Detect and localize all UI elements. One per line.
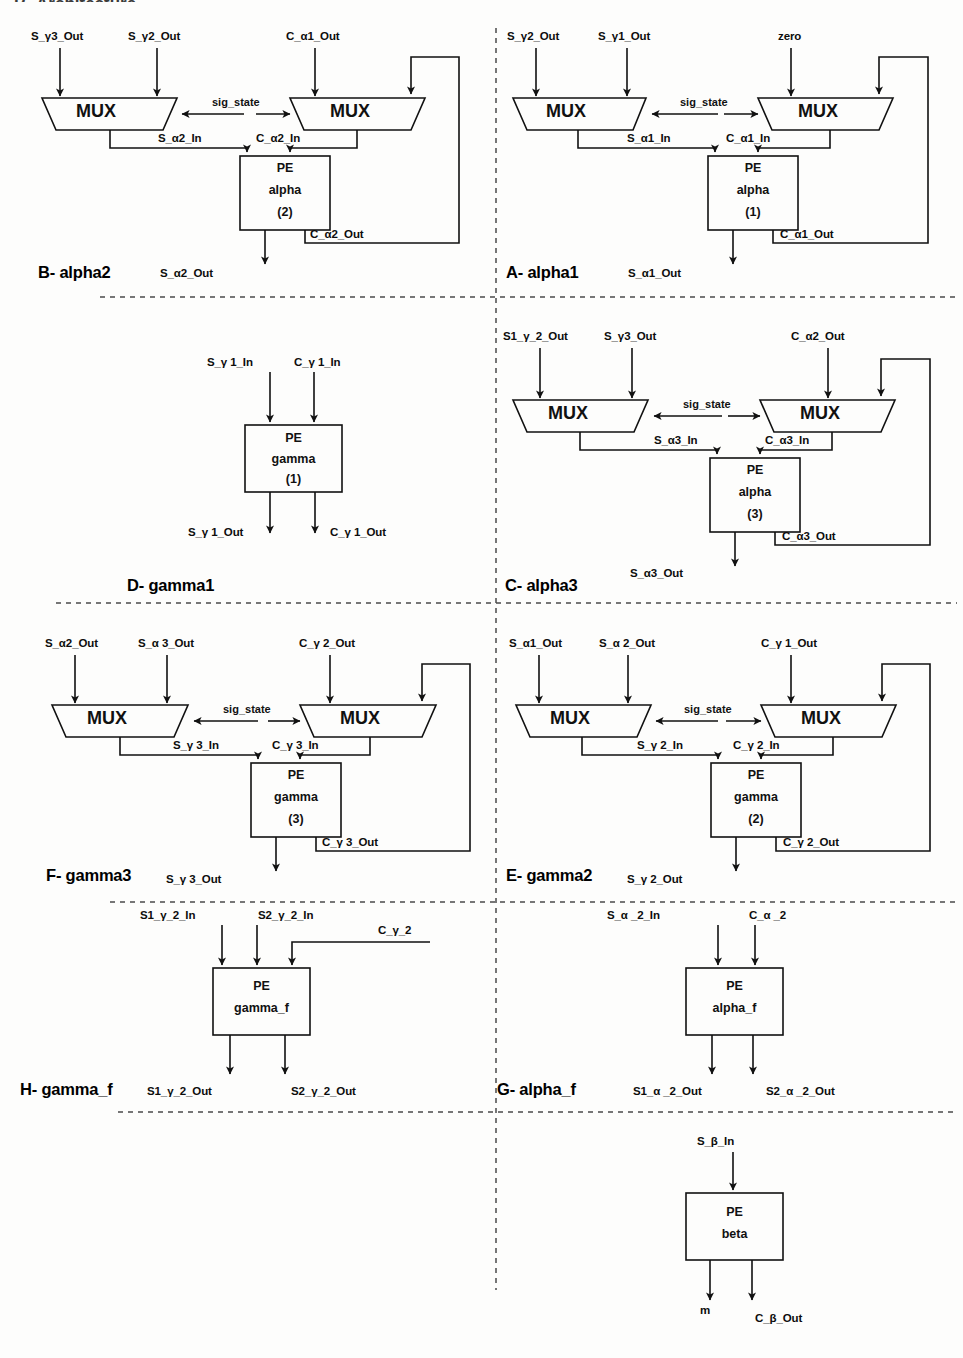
panel-B-pe-line2: alpha [240, 183, 330, 197]
panel-G-pe-line2: alpha_f [686, 1001, 783, 1015]
panel-B-pe-out-carry: C_α2_Out [310, 228, 364, 240]
panel-F-wires [52, 655, 470, 871]
panel-A-pe-line2: alpha [708, 183, 798, 197]
panel-B-input-label-1: S_γ3_Out [31, 30, 83, 42]
panel-C-pe-in-right: C_α3_In [765, 434, 809, 446]
panel-E-mux-right: MUX [801, 708, 841, 729]
panel-B-wires [42, 48, 459, 264]
panel-C-pe-line3: (3) [710, 507, 800, 521]
panel-D-pe-line1: PE [245, 431, 342, 445]
panel-B-sig-state: sig_state [212, 96, 260, 108]
panel-A-pe-in-right: C_α1_In [726, 132, 770, 144]
panel-H-wires [213, 925, 430, 1074]
panel-B-input-label-3: C_α1_Out [286, 30, 340, 42]
panel-C-input-label-1: S1_γ_2_Out [503, 330, 568, 342]
panel-D-pe-line3: (1) [245, 472, 342, 486]
panel-A-pe-out-carry: C_α1_Out [780, 228, 834, 240]
panel-A-pe-line1: PE [708, 161, 798, 175]
panel-B-pe-out-sum: S_α2_Out [160, 267, 213, 279]
panel-C-input-label-3: C_α2_Out [791, 330, 845, 342]
panel-B-mux-right: MUX [330, 101, 370, 122]
diagram-vector-layer [0, 0, 963, 1358]
panel-H-pe-out-1: S1_γ_2_Out [147, 1085, 212, 1097]
panel-H-pe-line1: PE [213, 979, 310, 993]
panel-B-pe-line3: (2) [240, 205, 330, 219]
panel-F-pe-line2: gamma [251, 790, 341, 804]
panel-F-mux-right: MUX [340, 708, 380, 729]
panel-C-mux-left: MUX [548, 403, 588, 424]
panel-C-title: C- alpha3 [505, 576, 577, 595]
panel-H-pe-in-1: S1_γ_2_In [140, 909, 195, 921]
panel-H-pe-line2: gamma_f [213, 1001, 310, 1015]
panel-C-pe-in-left: S_α3_In [654, 434, 697, 446]
panel-B-pe-in-left: S_α2_In [158, 132, 201, 144]
panel-G-title: G- alpha_f [497, 1080, 576, 1099]
panel-B-pe-in-right: C_α2_In [256, 132, 300, 144]
panel-F-title: F- gamma3 [46, 866, 131, 885]
panel-H-pe-in-3: C_γ_2 [378, 924, 411, 936]
panel-E-wires [516, 655, 930, 871]
panel-A-sig-state: sig_state [680, 96, 728, 108]
panel-A-input-label-3: zero [778, 30, 801, 42]
panel-beta-wires [686, 1152, 783, 1300]
panel-G-wires [686, 925, 783, 1074]
panel-H-pe-in-2: S2_γ_2_In [258, 909, 313, 921]
panel-E-pe-out-sum: S_γ 2_Out [627, 873, 682, 885]
panel-E-pe-line1: PE [711, 768, 801, 782]
panel-beta-pe-line1: PE [686, 1205, 783, 1219]
panel-E-sig-state: sig_state [684, 703, 732, 715]
panel-E-title: E- gamma2 [506, 866, 592, 885]
panel-D-pe-out-sum: S_γ 1_Out [188, 526, 243, 538]
panel-F-mux-left: MUX [87, 708, 127, 729]
panel-C-pe-line2: alpha [710, 485, 800, 499]
panel-D-title: D- gamma1 [127, 576, 214, 595]
panel-A-wires [513, 48, 928, 264]
panel-E-input-label-2: S_α 2_Out [599, 637, 655, 649]
panel-C-pe-out-sum: S_α3_Out [630, 567, 683, 579]
panel-F-pe-line3: (3) [251, 812, 341, 826]
panel-G-pe-in-1: S_α _2_In [607, 909, 660, 921]
panel-A-mux-left: MUX [546, 101, 586, 122]
panel-C-wires [513, 348, 930, 566]
panel-F-input-label-3: C_γ 2_Out [299, 637, 355, 649]
architecture-diagram: B- Architecture [0, 0, 963, 1358]
panel-D-pe-line2: gamma [245, 452, 342, 466]
panel-H-pe-out-2: S2_γ_2_Out [291, 1085, 356, 1097]
panel-C-pe-line1: PE [710, 463, 800, 477]
panel-beta-pe-out-2: C_β_Out [755, 1312, 802, 1324]
panel-E-mux-left: MUX [550, 708, 590, 729]
panel-B-title: B- alpha2 [38, 263, 110, 282]
panel-D-pe-in-right: C_γ 1_In [294, 356, 341, 368]
panel-A-input-label-2: S_γ1_Out [598, 30, 650, 42]
panel-F-pe-in-left: S_γ 3_In [173, 739, 219, 751]
panel-beta-pe-line2: beta [686, 1227, 783, 1241]
panel-F-pe-out-carry: C_γ 3_Out [322, 836, 378, 848]
panel-A-pe-in-left: S_α1_In [627, 132, 670, 144]
panel-C-mux-right: MUX [800, 403, 840, 424]
panel-E-pe-in-left: S_γ 2_In [637, 739, 683, 751]
panel-F-pe-out-sum: S_γ 3_Out [166, 873, 221, 885]
panel-C-sig-state: sig_state [683, 398, 731, 410]
panel-G-pe-out-2: S2_α _2_Out [766, 1085, 835, 1097]
panel-D-pe-in-left: S_γ 1_In [207, 356, 253, 368]
panel-F-pe-in-right: C_γ 3_In [272, 739, 319, 751]
panel-C-pe-out-carry: C_α3_Out [782, 530, 836, 542]
panel-F-input-label-2: S_α 3_Out [138, 637, 194, 649]
panel-E-input-label-1: S_α1_Out [509, 637, 562, 649]
panel-B-mux-left: MUX [76, 101, 116, 122]
panel-F-input-label-1: S_α2_Out [45, 637, 98, 649]
panel-F-pe-line1: PE [251, 768, 341, 782]
panel-A-title: A- alpha1 [506, 263, 578, 282]
panel-C-input-label-2: S_γ3_Out [604, 330, 656, 342]
panel-A-mux-right: MUX [798, 101, 838, 122]
panel-G-pe-out-1: S1_α _2_Out [633, 1085, 702, 1097]
panel-H-title: H- gamma_f [20, 1080, 112, 1099]
panel-G-pe-in-2: C_α _2 [749, 909, 786, 921]
panel-B-pe-line1: PE [240, 161, 330, 175]
panel-A-pe-line3: (1) [708, 205, 798, 219]
panel-G-pe-line1: PE [686, 979, 783, 993]
panel-E-pe-line3: (2) [711, 812, 801, 826]
panel-divider-group [56, 28, 957, 1290]
panel-A-input-label-1: S_γ2_Out [507, 30, 559, 42]
panel-E-pe-out-carry: C_γ 2_Out [783, 836, 839, 848]
